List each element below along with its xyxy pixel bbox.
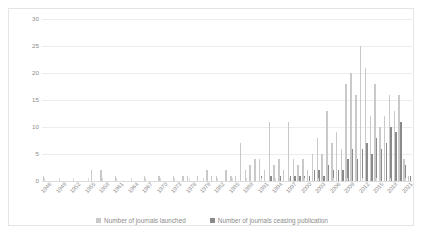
x-axis-tick-mark: [261, 178, 262, 181]
x-axis-tick-label-1970: 1970: [155, 181, 168, 194]
x-axis-tick-mark: [232, 178, 233, 181]
bar-ceased: [376, 138, 377, 181]
bar-ceased: [342, 170, 343, 181]
bar-launched: [249, 165, 250, 181]
bar-launched: [254, 159, 255, 181]
x-axis-tick-mark: [362, 178, 363, 181]
x-axis-tick-mark: [145, 178, 146, 181]
x-axis-tick-mark: [131, 178, 132, 181]
x-axis-tick-label-2000: 2000: [300, 181, 313, 194]
x-axis-tick-label-1982: 1982: [213, 181, 226, 194]
bar-ceased: [338, 170, 339, 181]
legend-label-launched: Number of journals launched: [104, 217, 186, 224]
y-axis-tick-label-5: 5: [17, 151, 39, 157]
x-axis-tick-mark: [289, 178, 290, 181]
x-axis-tick-label-1961: 1961: [112, 181, 125, 194]
x-axis-tick-label-1967: 1967: [141, 181, 154, 194]
x-axis-tick-label-1979: 1979: [199, 181, 212, 194]
x-axis-tick-label-1988: 1988: [242, 181, 255, 194]
y-axis-tick-label-15: 15: [17, 97, 39, 103]
x-axis-tick-label-1949: 1949: [54, 181, 67, 194]
y-axis-tick-label-20: 20: [17, 70, 39, 76]
x-axis-tick-mark: [217, 178, 218, 181]
x-axis-tick-mark: [347, 178, 348, 181]
x-axis-tick-mark: [246, 178, 247, 181]
x-axis-tick-label-2009: 2009: [343, 181, 356, 194]
x-axis-tick-label-2015: 2015: [372, 181, 385, 194]
chart-plot-wrapper: 051015202530 194619491952195519581961196…: [9, 9, 415, 227]
legend-swatch-launched-icon: [96, 218, 101, 223]
bar-ceased: [314, 170, 315, 181]
x-axis-tick-mark: [333, 178, 334, 181]
x-axis-tick-mark: [88, 178, 89, 181]
chart-container: 051015202530 194619491952195519581961196…: [8, 8, 414, 226]
bar-ceased: [357, 159, 358, 181]
bar-launched: [264, 170, 265, 181]
bar-ceased: [381, 149, 382, 181]
x-axis-tick-mark: [304, 178, 305, 181]
legend-label-ceased: Number of journals ceasing publication: [218, 217, 328, 224]
x-axis-tick-label-1973: 1973: [170, 181, 183, 194]
bar-ceased: [386, 143, 387, 181]
x-axis-tick-label-1994: 1994: [271, 181, 284, 194]
x-axis-tick-mark: [102, 178, 103, 181]
bar-ceased: [366, 143, 367, 181]
x-axis-tick-label-2021: 2021: [400, 181, 413, 194]
y-axis-tick-label-0: 0: [17, 178, 39, 184]
x-axis-tick-mark: [174, 178, 175, 181]
x-axis-tick-label-1985: 1985: [227, 181, 240, 194]
x-axis-tick-mark: [390, 178, 391, 181]
x-axis-tick-mark: [44, 178, 45, 181]
x-axis-tick-label-1955: 1955: [83, 181, 96, 194]
x-axis-tick-label-1976: 1976: [184, 181, 197, 194]
x-axis: 1946194919521955195819611964196719701973…: [42, 181, 412, 221]
y-axis-tick-label-25: 25: [17, 43, 39, 49]
x-axis-tick-label-1964: 1964: [127, 181, 140, 194]
x-axis-tick-label-1997: 1997: [285, 181, 298, 194]
bar-ceased: [328, 165, 329, 181]
x-axis-tick-mark: [59, 178, 60, 181]
x-axis-tick-mark: [189, 178, 190, 181]
y-axis: 051015202530: [15, 9, 39, 227]
x-axis-tick-mark: [160, 178, 161, 181]
x-axis-tick-label-2012: 2012: [357, 181, 370, 194]
bar-launched: [269, 122, 270, 181]
y-axis-tick-label-10: 10: [17, 124, 39, 130]
bar-launched: [240, 143, 241, 181]
x-axis-tick-label-1958: 1958: [98, 181, 111, 194]
x-axis-tick-mark: [376, 178, 377, 181]
bar-launched: [206, 170, 207, 181]
legend-swatch-ceased-icon: [210, 218, 215, 223]
bar-ceased: [352, 149, 353, 181]
bar-launched: [283, 170, 284, 181]
x-axis-tick-label-1946: 1946: [40, 181, 53, 194]
bar-launched: [225, 170, 226, 181]
bar-launched: [288, 122, 289, 181]
bar-launched: [91, 170, 92, 181]
x-axis-tick-mark: [405, 178, 406, 181]
x-axis-tick-mark: [116, 178, 117, 181]
x-axis-tick-label-1991: 1991: [256, 181, 269, 194]
bar-ceased: [390, 127, 391, 181]
bar-ceased: [395, 132, 396, 181]
x-axis-tick-label-2018: 2018: [386, 181, 399, 194]
y-axis-tick-label-30: 30: [17, 16, 39, 22]
bar-ceased: [371, 154, 372, 181]
x-axis-tick-mark: [275, 178, 276, 181]
bar-ceased: [400, 122, 401, 181]
legend-item-ceased: Number of journals ceasing publication: [210, 217, 328, 224]
x-axis-tick-label-2006: 2006: [328, 181, 341, 194]
x-axis-tick-label-1952: 1952: [69, 181, 82, 194]
x-axis-tick-mark: [203, 178, 204, 181]
x-axis-tick-mark: [73, 178, 74, 181]
legend-item-launched: Number of journals launched: [96, 217, 186, 224]
chart-legend: Number of journals launched Number of jo…: [9, 217, 415, 224]
x-axis-tick-label-2003: 2003: [314, 181, 327, 194]
bar-ceased: [362, 149, 363, 181]
x-axis-tick-mark: [318, 178, 319, 181]
